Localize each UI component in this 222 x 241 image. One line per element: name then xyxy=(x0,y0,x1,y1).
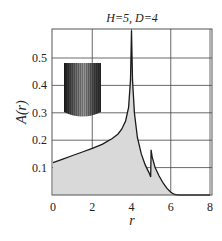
svg-text:0.5: 0.5 xyxy=(32,51,47,65)
svg-text:0.3: 0.3 xyxy=(32,106,47,120)
x-axis-label: r xyxy=(129,213,135,228)
svg-text:0.1: 0.1 xyxy=(32,161,47,175)
svg-text:0.2: 0.2 xyxy=(32,133,47,147)
x-tick-labels: 02468 xyxy=(50,200,213,214)
svg-text:0.4: 0.4 xyxy=(32,78,47,92)
svg-text:2: 2 xyxy=(89,200,95,214)
svg-text:6: 6 xyxy=(168,200,174,214)
svg-text:8: 8 xyxy=(207,200,213,214)
svg-text:0: 0 xyxy=(50,200,56,214)
chart-title: H=5, D=4 xyxy=(105,11,158,25)
chart: H=5, D=4 02468 0.10.20.30.40.5 r A(r) xyxy=(0,0,222,241)
svg-text:4: 4 xyxy=(129,200,135,214)
y-axis-label: A(r) xyxy=(14,100,30,125)
y-tick-labels: 0.10.20.30.40.5 xyxy=(32,51,47,175)
cylinder-icon xyxy=(64,63,101,117)
